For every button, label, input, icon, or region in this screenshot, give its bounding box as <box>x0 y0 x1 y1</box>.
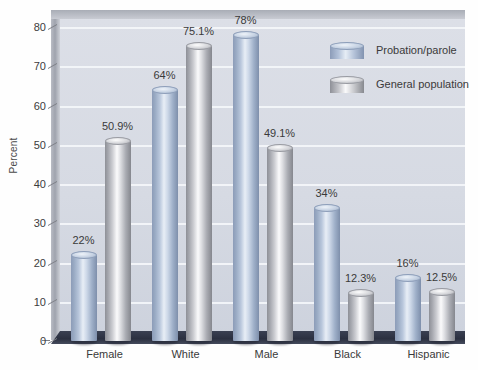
bar <box>186 46 212 341</box>
bar-body <box>395 278 421 341</box>
bar-cap <box>152 86 178 94</box>
bar-chart: Percent 01020304050607080 22%50.9%64%75.… <box>0 0 478 370</box>
bar <box>429 292 455 341</box>
bar-cap <box>429 288 455 296</box>
bar <box>267 148 293 341</box>
bar-body <box>314 208 340 341</box>
x-tick-label: Black <box>334 348 361 360</box>
bar-value-label: 49.1% <box>264 127 295 139</box>
bar <box>348 293 374 341</box>
bar-body <box>429 292 455 341</box>
bar-body <box>267 148 293 341</box>
bar-value-label: 78% <box>234 14 256 26</box>
legend-label: Probation/parole <box>376 44 457 56</box>
bar-cap <box>348 289 374 297</box>
bar-value-label: 75.1% <box>183 25 214 37</box>
bar-value-label: 22% <box>72 234 94 246</box>
bar-value-label: 34% <box>315 187 337 199</box>
bar <box>233 35 259 341</box>
x-tick-label: White <box>171 348 199 360</box>
bar-body <box>233 35 259 341</box>
bar-body <box>71 255 97 341</box>
x-tick-label: Male <box>255 348 279 360</box>
legend-label: General population <box>376 78 469 90</box>
bar <box>314 208 340 341</box>
bar <box>105 141 131 341</box>
bar-value-label: 12.5% <box>426 271 457 283</box>
bar-value-label: 50.9% <box>102 120 133 132</box>
x-tick-label: Female <box>86 348 123 360</box>
bar <box>152 90 178 341</box>
bar-value-label: 64% <box>153 69 175 81</box>
bar-value-label: 16% <box>396 257 418 269</box>
bar-body <box>152 90 178 341</box>
bar <box>71 255 97 341</box>
bar-body <box>348 293 374 341</box>
bar-cap <box>71 251 97 259</box>
bar-cap <box>233 31 259 39</box>
bar-value-label: 12.3% <box>345 272 376 284</box>
bar-body <box>105 141 131 341</box>
cylinder-gray-icon <box>330 76 364 93</box>
x-tick-label: Hispanic <box>407 348 449 360</box>
bar-cap <box>314 204 340 212</box>
bar <box>395 278 421 341</box>
bar-body <box>186 46 212 341</box>
cylinder-blue-icon <box>330 42 364 59</box>
